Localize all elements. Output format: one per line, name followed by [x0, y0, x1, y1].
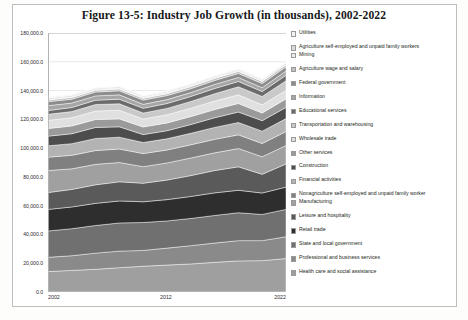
legend-item: Information: [291, 94, 457, 101]
legend-item-label: Leisure and hospitality: [299, 213, 351, 219]
x-axis: 200220122022: [48, 294, 286, 306]
legend-item-label: Agriculture wage and salary: [299, 66, 363, 72]
stacked-area-svg: [48, 33, 286, 292]
legend-item: Wholesale trade: [291, 136, 457, 143]
legend-swatch-icon: [291, 151, 296, 156]
chart-title: Figure 13-5: Industry Job Growth (in tho…: [0, 9, 468, 22]
legend-swatch-icon: [291, 256, 296, 261]
page-canvas: Figure 13-5: Industry Job Growth (in tho…: [0, 0, 468, 320]
y-axis-tick: 60,000.0: [23, 203, 43, 209]
x-axis-tick: 2002: [48, 294, 60, 300]
legend-item: Retail trade: [291, 227, 457, 234]
legend-item: Agriculture self-employed and unpaid fam…: [291, 44, 457, 51]
legend-swatch-icon: [291, 31, 296, 36]
legend-swatch-icon: [291, 137, 296, 142]
y-axis: 180,000.0160,000.0140,000.0120,000.0100,…: [0, 33, 46, 292]
legend-item-label: Transportation and warehousing: [299, 122, 373, 128]
legend-swatch-icon: [291, 67, 296, 72]
legend-item-label: Other services: [299, 150, 332, 156]
legend-swatch-icon: [291, 228, 296, 233]
legend-item: Federal government: [291, 80, 457, 87]
legend-swatch-icon: [291, 214, 296, 219]
legend-item: State and local government: [291, 241, 457, 248]
legend-item: Mining: [291, 52, 457, 59]
y-axis-tick: 20,000.0: [23, 260, 43, 266]
y-axis-tick: 180,000.0: [20, 30, 43, 36]
legend-item-label: Mining: [299, 52, 314, 58]
legend-item-label: Information: [299, 94, 325, 100]
legend-item-label: Agriculture self-employed and unpaid fam…: [299, 44, 419, 50]
legend-swatch-icon: [291, 165, 296, 170]
y-axis-tick: 160,000.0: [20, 59, 43, 65]
legend-item-label: Federal government: [299, 80, 345, 86]
legend-item: Manufacturing: [291, 199, 457, 206]
plot-wrapper: [48, 33, 286, 292]
x-axis-tick: 2012: [160, 294, 172, 300]
y-axis-tick: 80,000.0: [23, 174, 43, 180]
legend-swatch-icon: [291, 45, 296, 50]
legend-swatch-icon: [291, 53, 296, 58]
legend-item: Nonagriculture self-employed and unpaid …: [291, 191, 457, 198]
chart-legend: UtilitiesAgriculture self-employed and u…: [291, 30, 457, 283]
legend-item: Agriculture wage and salary: [291, 66, 457, 73]
legend-swatch-icon: [291, 270, 296, 275]
legend-item-label: Utilities: [299, 30, 316, 36]
legend-swatch-icon: [291, 109, 296, 114]
legend-swatch-icon: [291, 242, 296, 247]
legend-item-label: Educational services: [299, 108, 347, 114]
legend-item: Leisure and hospitality: [291, 213, 457, 220]
legend-swatch-icon: [291, 200, 296, 205]
legend-swatch-icon: [291, 95, 296, 100]
legend-item: Utilities: [291, 30, 457, 37]
legend-item-label: Nonagriculture self-employed and unpaid …: [299, 191, 426, 197]
legend-item-label: State and local government: [299, 241, 362, 247]
legend-item-label: Health care and social assistance: [299, 269, 376, 275]
legend-item-label: Financial activities: [299, 177, 341, 183]
legend-swatch-icon: [291, 81, 296, 86]
legend-item: Financial activities: [291, 177, 457, 184]
legend-swatch-icon: [291, 123, 296, 128]
y-axis-tick: 40,000.0: [23, 231, 43, 237]
legend-item-label: Wholesale trade: [299, 136, 337, 142]
legend-item: Health care and social assistance: [291, 269, 457, 276]
legend-swatch-icon: [291, 193, 296, 198]
legend-item: Transportation and warehousing: [291, 122, 457, 129]
legend-swatch-icon: [291, 179, 296, 184]
y-axis-tick: 120,000.0: [20, 116, 43, 122]
legend-item: Other services: [291, 150, 457, 157]
y-axis-tick: 140,000.0: [20, 88, 43, 94]
legend-item: Construction: [291, 163, 457, 170]
legend-item-label: Professional and business services: [299, 255, 380, 261]
legend-item-label: Construction: [299, 163, 328, 169]
legend-item-label: Manufacturing: [299, 199, 332, 205]
legend-item: Professional and business services: [291, 255, 457, 262]
y-axis-tick: 0.0: [36, 289, 43, 295]
legend-item-label: Retail trade: [299, 227, 326, 233]
x-axis-tick: 2022: [274, 294, 286, 300]
legend-item: Educational services: [291, 108, 457, 115]
y-axis-tick: 100,000.0: [20, 145, 43, 151]
